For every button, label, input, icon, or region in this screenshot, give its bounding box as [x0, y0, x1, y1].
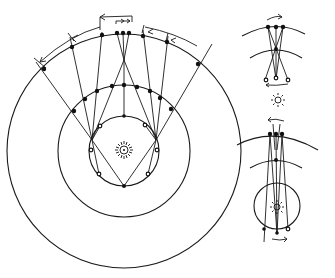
sun-icon — [271, 93, 285, 107]
back-arrow-icon — [266, 83, 288, 87]
middle-points — [72, 83, 173, 113]
outer-points — [42, 31, 200, 71]
main-diagram — [7, 14, 241, 268]
retrograde-motion-diagram — [0, 0, 335, 278]
arrow-left-head-4 — [171, 38, 176, 43]
outer-track-arc-right — [145, 27, 197, 46]
arrow-left-head-3 — [148, 29, 153, 34]
inset-top — [242, 14, 305, 107]
small-forward-arrow — [116, 19, 130, 24]
back-arrow-icon — [268, 117, 284, 122]
outer-track-arc — [40, 27, 100, 62]
sight-lines — [36, 30, 212, 186]
sun-icon — [115, 141, 133, 159]
inset-bottom — [237, 117, 318, 242]
forward-arrow-icon — [267, 14, 282, 20]
forward-arrow-icon — [272, 237, 287, 242]
